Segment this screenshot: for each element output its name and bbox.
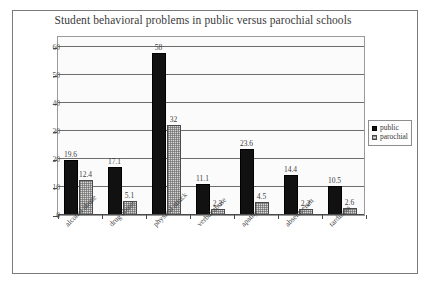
gridline [58, 102, 364, 103]
chart-legend: publicparochial [368, 120, 412, 146]
legend-entry-parochial: parochial [372, 133, 408, 141]
bar-value-label: 14.4 [280, 165, 302, 174]
bar-value-label: 4.5 [251, 192, 273, 201]
x-tick-mark [234, 215, 235, 219]
gridline [58, 130, 364, 131]
gridline [58, 186, 364, 187]
x-tick-mark [278, 215, 279, 219]
chart-figure: Student behavioral problems in public ve… [0, 0, 432, 285]
bar-public [64, 160, 78, 215]
legend-entry-public: public [372, 124, 408, 132]
bar-value-label: 32 [163, 115, 185, 124]
y-tick-mark [53, 188, 57, 189]
y-tick-mark [53, 104, 57, 105]
x-tick-mark [146, 215, 147, 219]
y-tick-mark [53, 48, 57, 49]
y-tick-mark [53, 216, 57, 217]
legend-swatch-icon [372, 135, 377, 140]
y-tick-mark [53, 132, 57, 133]
bar-value-label: 23.6 [236, 139, 258, 148]
bar-value-label: 12.4 [75, 170, 97, 179]
bar-value-label: 11.1 [192, 174, 214, 183]
x-tick-mark [190, 215, 191, 219]
gridline [58, 46, 364, 47]
legend-label: parochial [380, 133, 408, 141]
bar-value-label: 19.6 [60, 150, 82, 159]
bar-public [152, 53, 166, 215]
chart-title: Student behavioral problems in public ve… [16, 14, 390, 26]
x-tick-mark [366, 215, 367, 219]
x-tick-mark [322, 215, 323, 219]
y-tick-mark [53, 76, 57, 77]
bar-value-label: 17.1 [104, 157, 126, 166]
bar-public [240, 149, 254, 215]
x-tick-mark [102, 215, 103, 219]
bar-value-label: 58 [148, 43, 170, 52]
plot-area: 19.612.417.15.1583211.12.323.64.514.42.2… [57, 36, 365, 216]
y-tick-mark [53, 160, 57, 161]
bar-value-label: 10.5 [324, 176, 346, 185]
legend-swatch-icon [372, 126, 377, 131]
gridline [58, 74, 364, 75]
legend-label: public [380, 124, 399, 132]
